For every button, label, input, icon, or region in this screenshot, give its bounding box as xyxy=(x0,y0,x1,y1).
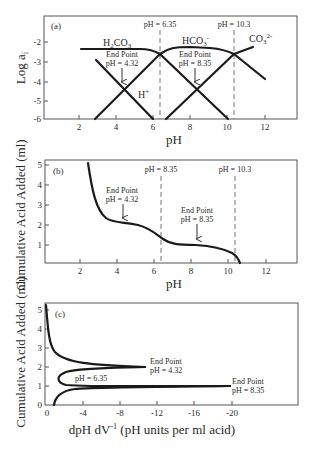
x-tick: 12 xyxy=(261,122,270,132)
x-tick: 12 xyxy=(262,266,271,276)
endpoint-label: End PointpH = 4.32 xyxy=(150,357,183,375)
y-tick: 1 xyxy=(38,381,43,391)
panel-c-x-axis: 0 -4 -8 -12 -16 -20 xyxy=(45,401,239,418)
panel-b-x-axis: 2 4 6 8 10 12 xyxy=(78,259,271,276)
panel-b-y-axis: 5 4 3 2 1 xyxy=(38,160,50,250)
panel-a: (a) -2 -3 -4 -5 -6 Log ai 2 4 6 8 10 12 … xyxy=(13,16,297,147)
panel-c-tag: (c) xyxy=(55,309,65,319)
panel-a-ylabel: Log ai xyxy=(13,51,30,84)
endpoint-label: End PointpH = 8.35 xyxy=(179,50,212,68)
x-tick: 2 xyxy=(78,266,83,276)
endpoint-label: End PointpH = 8.35 xyxy=(181,206,214,224)
panel-a-y-axis: -2 -3 -4 -5 -6 xyxy=(34,37,49,124)
y-tick: 0 xyxy=(38,400,43,410)
vline-label: pH = 8.35 xyxy=(145,165,177,174)
y-tick: 1 xyxy=(38,240,43,250)
x-tick: 4 xyxy=(115,266,120,276)
x-tick: 0 xyxy=(45,408,50,418)
titration-curve xyxy=(88,163,240,263)
label-hco3: HCO3- xyxy=(182,34,210,48)
y-tick: -5 xyxy=(34,96,42,106)
y-tick: 2 xyxy=(38,362,43,372)
y-tick: 4 xyxy=(38,324,43,334)
label-h-plus: H+ xyxy=(138,88,149,100)
endpoint-label: End PointpH = 8.35 xyxy=(232,377,265,395)
panel-b-tag: (b) xyxy=(53,166,64,176)
x-tick: 8 xyxy=(188,122,193,132)
panel-a-tag: (a) xyxy=(51,21,61,31)
x-tick: 8 xyxy=(189,266,194,276)
x-tick: -12 xyxy=(151,408,163,418)
y-tick: 5 xyxy=(38,160,43,170)
x-tick: 10 xyxy=(224,266,234,276)
endpoint-label: End PointpH = 4.32 xyxy=(106,50,139,68)
y-tick: 3 xyxy=(38,343,43,353)
derivative-curve-lower xyxy=(54,386,230,405)
x-tick: -20 xyxy=(226,408,238,418)
y-tick: -2 xyxy=(34,37,42,47)
x-tick: 10 xyxy=(223,122,233,132)
x-tick: -8 xyxy=(116,408,124,418)
y-tick: -3 xyxy=(34,57,42,67)
y-tick: 5 xyxy=(38,305,43,315)
y-tick: -4 xyxy=(34,77,42,87)
endpoint-label: End PointpH = 4.32 xyxy=(106,186,139,204)
x-tick: -4 xyxy=(79,408,87,418)
y-tick: 2 xyxy=(38,220,43,230)
panel-b-xlabel: pH xyxy=(166,276,182,291)
y-tick: -6 xyxy=(34,114,42,124)
panel-a-x-axis: 2 4 6 8 10 12 xyxy=(77,115,270,132)
vline-label: pH = 10.3 xyxy=(218,20,250,29)
label-co3: CO32- xyxy=(249,32,273,46)
x-tick: -16 xyxy=(188,408,200,418)
x-tick: 4 xyxy=(114,122,119,132)
panel-c-xlabel: dpH dV-1 (pH units per ml acid) xyxy=(69,422,235,437)
x-tick: 2 xyxy=(77,122,82,132)
x-tick: 6 xyxy=(152,266,157,276)
panel-a-xlabel: pH xyxy=(166,132,182,147)
midpoint-label: pH = 6.35 xyxy=(75,374,107,383)
x-tick: 6 xyxy=(151,122,156,132)
vline-label: pH = 10.3 xyxy=(219,165,251,174)
panel-c: (c) 5 4 3 2 1 0 Cumulative Acid Added (m… xyxy=(13,276,298,437)
panel-b-ylabel: Cumulative Acid Added (ml) xyxy=(13,139,28,290)
y-tick: 4 xyxy=(38,180,43,190)
y-tick: 3 xyxy=(38,200,43,210)
panel-a-frame xyxy=(44,16,297,119)
figure: (a) -2 -3 -4 -5 -6 Log ai 2 4 6 8 10 12 … xyxy=(0,0,311,451)
panel-c-ylabel: Cumulative Acid Added (ml) xyxy=(13,276,28,427)
panel-b-frame xyxy=(45,160,297,263)
vline-label: pH = 6.35 xyxy=(144,20,176,29)
panel-b: (b) 5 4 3 2 1 Cumulative Acid Added (ml)… xyxy=(13,139,297,291)
